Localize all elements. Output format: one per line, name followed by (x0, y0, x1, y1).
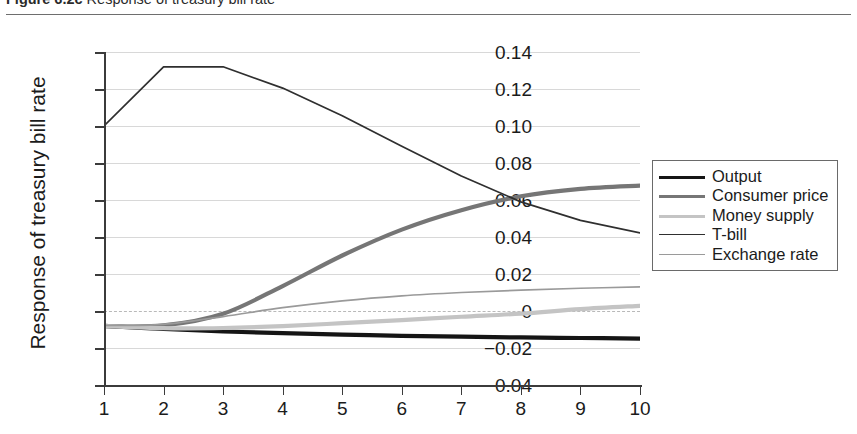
legend-line-swatch (659, 209, 705, 221)
legend-item: T-bill (659, 225, 828, 245)
y-axis-tick (95, 311, 104, 313)
x-axis-tick-label: 2 (144, 399, 184, 418)
y-axis-tick (95, 126, 104, 128)
x-axis-tick (283, 387, 284, 395)
legend-item-label: T-bill (712, 226, 747, 243)
x-axis-tick-label: 1 (84, 399, 124, 418)
legend-item: Money supply (659, 205, 828, 225)
figure-header: Figure 6.2c Response of treasury bill ra… (0, 0, 857, 17)
plot-area: 0.140.120.100.080.060.040.020−0.02−0.04 (104, 52, 640, 385)
legend-item-label: Money supply (712, 207, 814, 224)
legend-line-swatch (659, 228, 705, 240)
legend-item-label: Consumer price (712, 187, 828, 204)
line-chart: Response of treasury bill rate 0.140.120… (0, 17, 857, 434)
figure-number: Figure 6.2c (6, 0, 83, 7)
y-axis-tick (95, 385, 104, 387)
figure-caption: Response of treasury bill rate (87, 0, 276, 7)
legend-item: Output (659, 166, 828, 186)
legend-line-swatch (659, 189, 705, 201)
x-axis-tick-label: 6 (382, 399, 422, 418)
x-axis-tick (461, 387, 462, 395)
y-axis-tick (95, 237, 104, 239)
x-axis-tick-label: 10 (620, 399, 660, 418)
x-axis-tick-label: 9 (560, 399, 600, 418)
legend-line-swatch (659, 170, 705, 182)
x-axis-tick-label: 7 (441, 399, 481, 418)
x-axis-tick (342, 387, 343, 395)
x-axis-tick (164, 387, 165, 395)
y-axis-tick (95, 52, 104, 54)
figure-title: Figure 6.2c Response of treasury bill ra… (6, 0, 275, 8)
series-line (104, 306, 640, 329)
chart-legend: OutputConsumer priceMoney supplyT-billEx… (652, 160, 838, 271)
x-axis-tick (402, 387, 403, 395)
x-axis-tick-label: 4 (263, 399, 303, 418)
y-axis-line (104, 52, 106, 385)
series-line (104, 67, 640, 233)
legend-item-label: Output (712, 168, 762, 185)
y-axis-tick (95, 89, 104, 91)
y-axis-tick (95, 274, 104, 276)
x-axis-tick (580, 387, 581, 395)
y-axis-tick (95, 348, 104, 350)
x-axis-tick (640, 387, 641, 395)
series-line (104, 186, 640, 327)
legend-item: Consumer price (659, 186, 828, 206)
x-axis-tick (223, 387, 224, 395)
legend-line-swatch (659, 248, 705, 260)
x-axis-tick-label: 3 (203, 399, 243, 418)
header-divider (6, 14, 851, 15)
y-axis-label: Response of treasury bill rate (26, 33, 50, 393)
y-axis-tick (95, 200, 104, 202)
x-axis-tick (104, 387, 105, 395)
legend-item: Exchange rate (659, 244, 828, 264)
series-curves (104, 52, 640, 385)
legend-item-label: Exchange rate (712, 246, 818, 263)
x-axis-tick-label: 5 (322, 399, 362, 418)
x-axis-tick (521, 387, 522, 395)
x-axis-tick-label: 8 (501, 399, 541, 418)
x-axis-line: 12345678910 (104, 385, 642, 387)
y-axis-tick (95, 163, 104, 165)
